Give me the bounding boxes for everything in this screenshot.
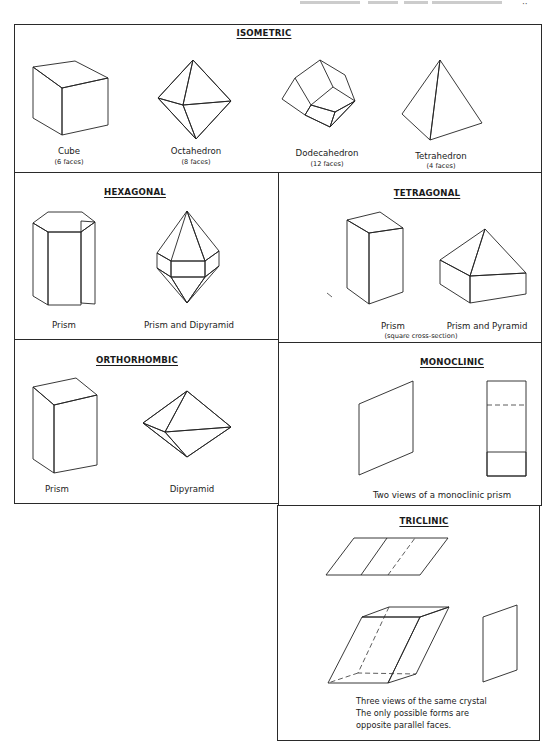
dodecahedron-drawing bbox=[282, 60, 355, 127]
tet-prism-note: (square cross-section) bbox=[385, 332, 458, 340]
triclinic-caption: Three views of the same crystal The only… bbox=[356, 695, 487, 731]
triclinic-3d-view bbox=[328, 607, 449, 683]
triclinic-caption-line-3: opposite parallel faces. bbox=[356, 719, 487, 731]
hex-prism-label: Prism bbox=[52, 320, 76, 330]
octahedron-label: Octahedron bbox=[171, 146, 221, 156]
ortho-prism-drawing bbox=[33, 378, 97, 473]
stray-mark bbox=[327, 293, 332, 297]
cube-drawing bbox=[33, 61, 108, 135]
monoclinic-oblique-view bbox=[359, 381, 413, 475]
octahedron-drawing bbox=[158, 60, 231, 139]
hex-prism-drawing bbox=[33, 212, 95, 305]
tet-pyramid-label: Prism and Pyramid bbox=[447, 321, 528, 331]
triclinic-caption-line-1: Three views of the same crystal bbox=[356, 695, 487, 707]
triclinic-side-view bbox=[483, 605, 517, 682]
ortho-dipyramid-drawing bbox=[143, 391, 231, 457]
monoclinic-end-view bbox=[487, 381, 526, 476]
tet-pyramid-drawing bbox=[440, 229, 526, 303]
tetrahedron-faces: (4 faces) bbox=[427, 162, 456, 170]
hex-dipyramid-drawing bbox=[157, 211, 219, 303]
monoclinic-caption: Two views of a monoclinic prism bbox=[373, 490, 511, 500]
tet-prism-drawing bbox=[347, 212, 403, 304]
hex-dipyramid-label: Prism and Dipyramid bbox=[144, 320, 234, 330]
cube-label: Cube bbox=[58, 146, 80, 156]
octahedron-faces: (8 faces) bbox=[182, 158, 211, 166]
dodecahedron-label: Dodecahedron bbox=[296, 148, 359, 158]
triclinic-caption-line-2: The only possible forms are bbox=[356, 707, 487, 719]
tetrahedron-label: Tetrahedron bbox=[415, 151, 466, 161]
ortho-prism-label: Prism bbox=[45, 484, 69, 494]
crystal-drawings bbox=[0, 0, 558, 756]
cube-faces: (6 faces) bbox=[55, 158, 84, 166]
tet-prism-label: Prism bbox=[381, 321, 405, 331]
tetrahedron-drawing bbox=[402, 60, 482, 140]
ortho-dipyramid-label: Dipyramid bbox=[170, 484, 215, 494]
dodecahedron-faces: (12 faces) bbox=[310, 160, 343, 168]
triclinic-top-view bbox=[326, 538, 448, 575]
